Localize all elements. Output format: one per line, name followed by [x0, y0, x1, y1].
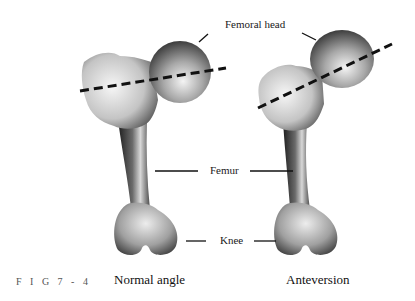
label-femur: Femur [210, 164, 239, 176]
femoral-head-leader-right [302, 33, 316, 40]
label-femoral-head: Femoral head [225, 18, 285, 30]
caption-anteversion: Anteversion [286, 272, 350, 288]
femur-anteversion [258, 30, 392, 255]
femur-shaft [118, 120, 150, 210]
femoral-head [310, 30, 374, 88]
figure-number: F I G 7 - 4 [16, 276, 91, 287]
femoral-head-leader-left [199, 34, 208, 42]
caption-normal-angle: Normal angle [114, 272, 185, 288]
greater-trochanter [82, 53, 158, 129]
femoral-head [149, 41, 211, 103]
femur-shaft [283, 122, 310, 210]
knee-condyles [274, 203, 337, 256]
label-knee: Knee [220, 234, 243, 246]
femur-normal [80, 41, 226, 255]
greater-trochanter [258, 65, 324, 131]
femur-diagram [0, 0, 415, 301]
knee-condyles [114, 203, 177, 256]
